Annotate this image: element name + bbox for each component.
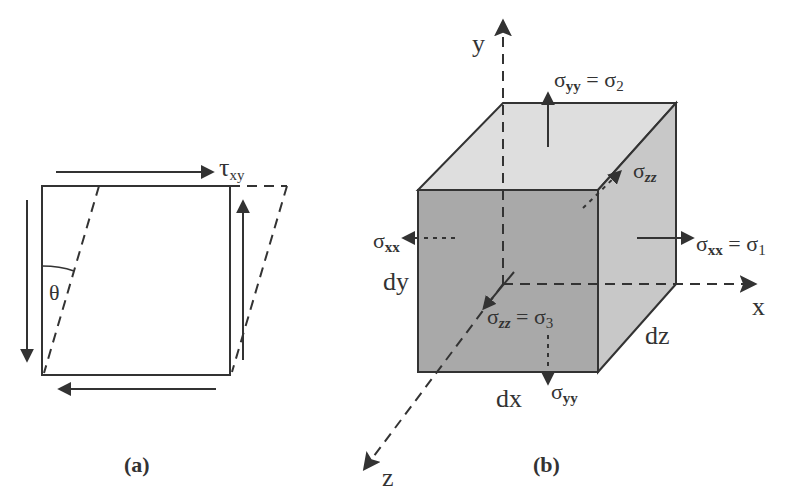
figure-b-stress-cube: y x z dy dx dz σyy = σ2 σzz σxx σxx = σ1… bbox=[365, 22, 766, 492]
caption-b: (b) bbox=[533, 452, 560, 477]
syy-top-label: σyy = σ2 bbox=[554, 67, 624, 94]
figure-a-shear-element: θ τxy (a) bbox=[27, 153, 287, 477]
angle-arc bbox=[42, 266, 74, 271]
shear-stress-label: τxy bbox=[219, 153, 245, 183]
cube-front-face bbox=[418, 190, 598, 372]
z-axis-label: z bbox=[382, 463, 394, 492]
square-element bbox=[42, 186, 230, 375]
dx-label: dx bbox=[496, 384, 522, 413]
sheared-right-edge bbox=[232, 186, 287, 372]
szz-front-label: σzz = σ3 bbox=[487, 304, 553, 331]
caption-a: (a) bbox=[124, 452, 150, 477]
dz-label: dz bbox=[645, 321, 670, 350]
sxx-right-label: σxx = σ1 bbox=[696, 231, 766, 258]
x-axis-label: x bbox=[752, 292, 765, 321]
y-axis-label: y bbox=[472, 29, 485, 58]
angle-theta-label: θ bbox=[49, 280, 60, 305]
sxx-left-label: σxx bbox=[373, 228, 400, 255]
diagram-canvas: θ τxy (a) y x z dy dx dz bbox=[0, 0, 799, 494]
syy-bottom-label: σyy bbox=[551, 379, 578, 406]
dy-label: dy bbox=[383, 267, 409, 296]
